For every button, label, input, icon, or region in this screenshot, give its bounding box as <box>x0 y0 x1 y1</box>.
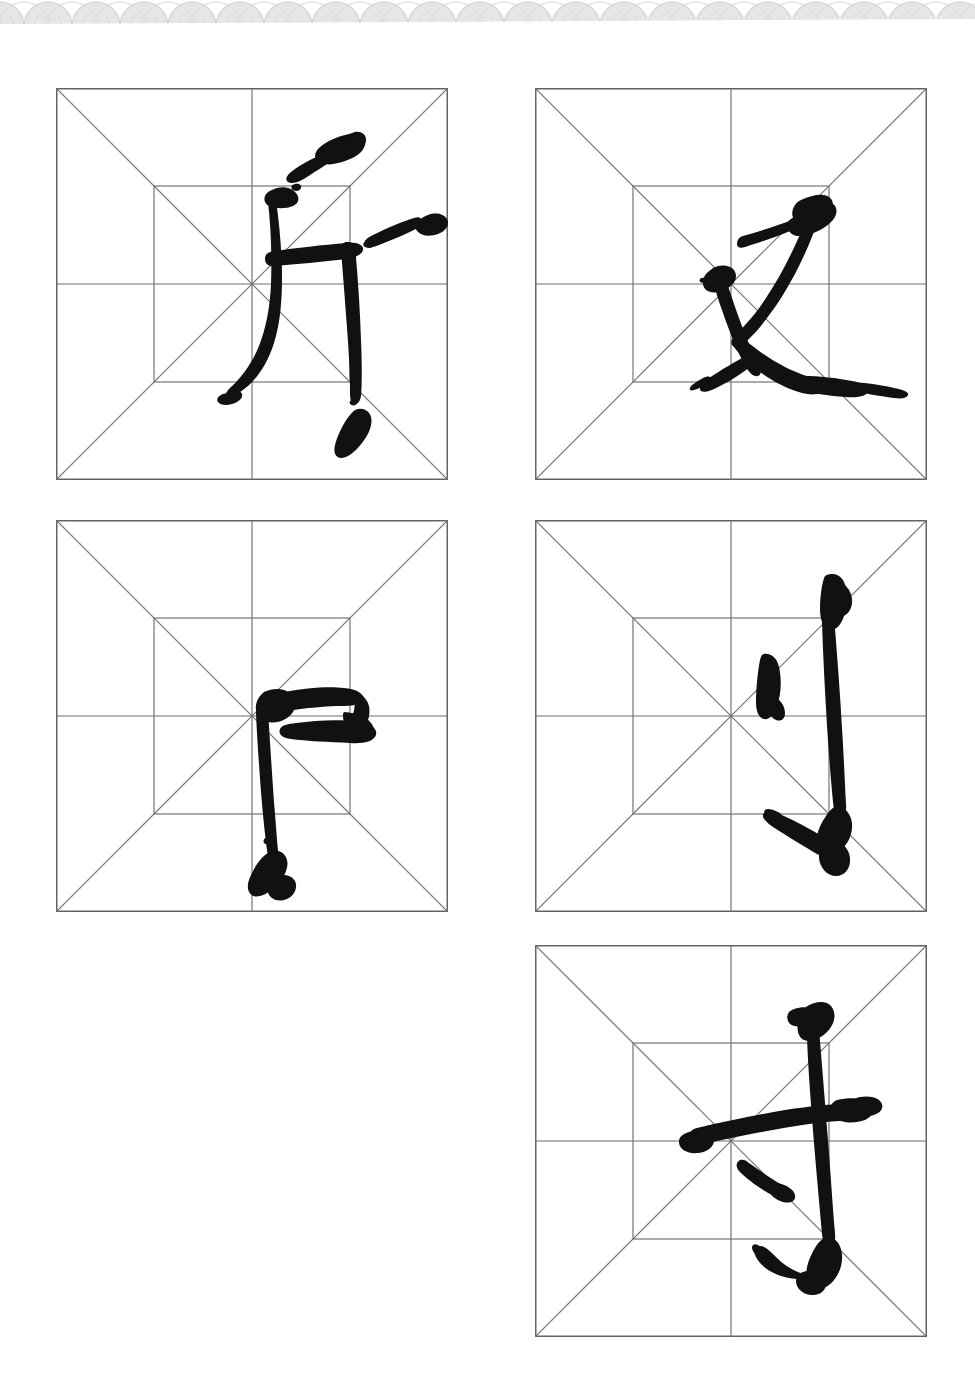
grid-lines <box>56 88 448 480</box>
brush-strokes-you <box>690 195 908 399</box>
character-cell-4[interactable] <box>535 520 927 912</box>
character-cell-1[interactable] <box>56 88 448 480</box>
grid-lines <box>535 88 927 480</box>
brush-strokes-shou <box>679 1002 882 1295</box>
brush-strokes-dao <box>756 574 852 876</box>
character-cell-3[interactable] <box>56 520 448 912</box>
calligraphy-practice-page <box>0 0 975 1398</box>
character-cell-2[interactable] <box>535 88 927 480</box>
grid-lines <box>535 520 927 912</box>
grid-lines <box>535 945 927 1337</box>
brush-strokes-jie <box>248 687 377 900</box>
decorative-border-band <box>0 0 975 26</box>
grid-lines <box>56 520 448 912</box>
character-cell-5[interactable] <box>535 945 927 1337</box>
